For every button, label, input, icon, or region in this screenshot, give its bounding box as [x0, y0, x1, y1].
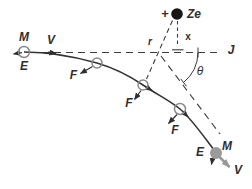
force-arrow-start	[14, 53, 23, 54]
particle-positions	[19, 47, 186, 115]
scattering-angle-theta-label: θ	[197, 65, 204, 77]
nucleus-label: Ze	[187, 8, 201, 20]
incident-velocity-label: V	[47, 34, 55, 46]
force-arrow-position2	[81, 67, 93, 74]
rutherford-scattering-diagram: M V E + Ze x r J θ F F F E M V	[0, 0, 252, 189]
force-label-1: F	[70, 69, 77, 81]
force-arrow-position3	[135, 91, 142, 100]
trajectory-direction-arrows	[48, 52, 188, 116]
scattered-charge-label: E	[196, 146, 204, 158]
impact-parameter-x-label: x	[185, 32, 191, 42]
radial-distance-r-dashed-line	[147, 21, 173, 80]
direction-arrowhead-1	[48, 52, 56, 53]
scattered-velocity-label: V	[234, 164, 242, 176]
line-end-j-label: J	[228, 44, 235, 56]
diagram-canvas	[0, 0, 252, 189]
exit-velocity-arrow	[219, 157, 230, 168]
nucleus-charge-sign: +	[161, 7, 169, 20]
radial-distance-r-label: r	[148, 37, 152, 47]
force-arrow-end	[212, 159, 213, 165]
scattered-mass-label: M	[222, 140, 232, 152]
scattering-angle-arc	[181, 48, 198, 87]
force-label-3: F	[171, 124, 178, 136]
force-label-2: F	[125, 97, 132, 109]
trajectory-curve	[24, 52, 216, 153]
nucleus-dot	[171, 8, 183, 20]
incident-mass-label: M	[19, 31, 29, 43]
incident-charge-label: E	[20, 60, 28, 72]
